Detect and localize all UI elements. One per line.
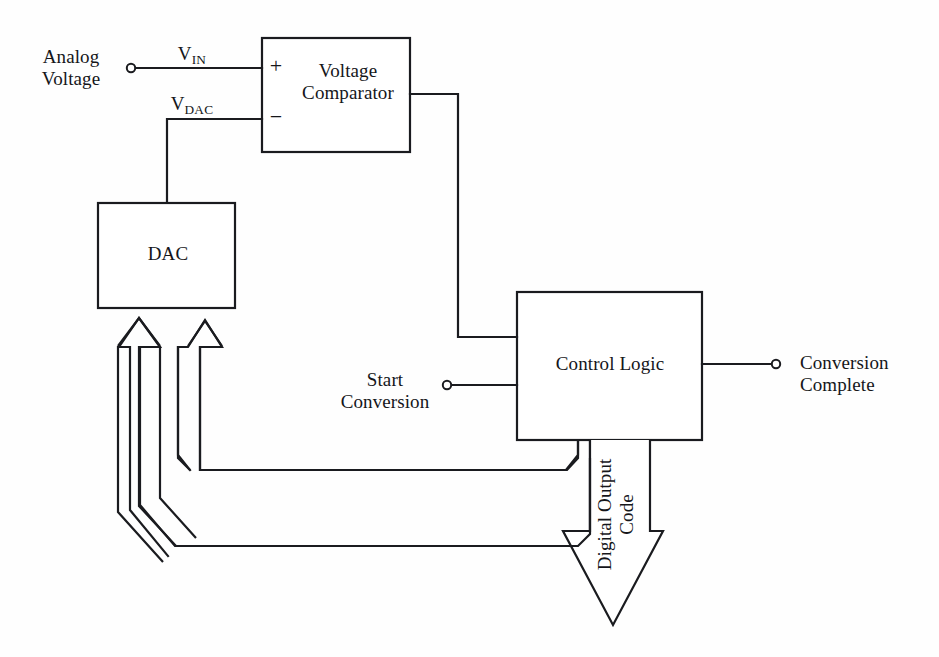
start-conversion-line1: Start <box>367 369 403 390</box>
start-conversion-line2: Conversion <box>341 391 430 412</box>
dac-label: DAC <box>116 243 220 265</box>
diagram-canvas <box>0 0 939 657</box>
comparator-plus-input-label: + <box>264 53 288 79</box>
conversion-complete-line2: Complete <box>800 374 875 395</box>
bus-lower-arrowhead <box>118 318 160 346</box>
analog-voltage-label: AnalogVoltage <box>20 46 122 91</box>
vdac-base: V <box>171 93 185 114</box>
conversion-complete-terminal[interactable] <box>772 360 780 368</box>
wire-comparator-output <box>410 94 517 337</box>
voltage-comparator-line2: Comparator <box>302 82 394 103</box>
control-logic-label: Control Logic <box>527 353 693 375</box>
bus-upper-inner-edge <box>178 346 190 470</box>
bus-upper-arrowhead <box>188 321 222 346</box>
vin-base: V <box>178 43 192 64</box>
digital-output-code-line1: Digital Output <box>594 459 615 571</box>
wire-vdac-feedback <box>167 119 262 203</box>
voltage-comparator-label: VoltageComparator <box>290 60 406 105</box>
conversion-complete-line1: Conversion <box>800 352 889 373</box>
vin-label: VIN <box>156 43 228 65</box>
adc-block-diagram: AnalogVoltage VIN VDAC + − VoltageCompar… <box>0 0 939 657</box>
analog-voltage-line1: Analog <box>43 46 100 67</box>
digital-output-code-label: Digital OutputCode <box>594 414 639 614</box>
digital-output-code-line2: Code <box>616 494 637 535</box>
vdac-subscript: DAC <box>185 102 214 117</box>
conversion-complete-label: ConversionComplete <box>800 352 932 397</box>
analog-voltage-terminal[interactable] <box>127 64 135 72</box>
start-conversion-label: StartConversion <box>335 369 435 414</box>
start-conversion-terminal[interactable] <box>443 381 451 389</box>
comparator-minus-input-label: − <box>264 104 288 130</box>
analog-voltage-line2: Voltage <box>42 68 100 89</box>
vin-subscript: IN <box>192 52 206 67</box>
voltage-comparator-line1: Voltage <box>319 60 377 81</box>
vdac-label: VDAC <box>150 93 234 115</box>
